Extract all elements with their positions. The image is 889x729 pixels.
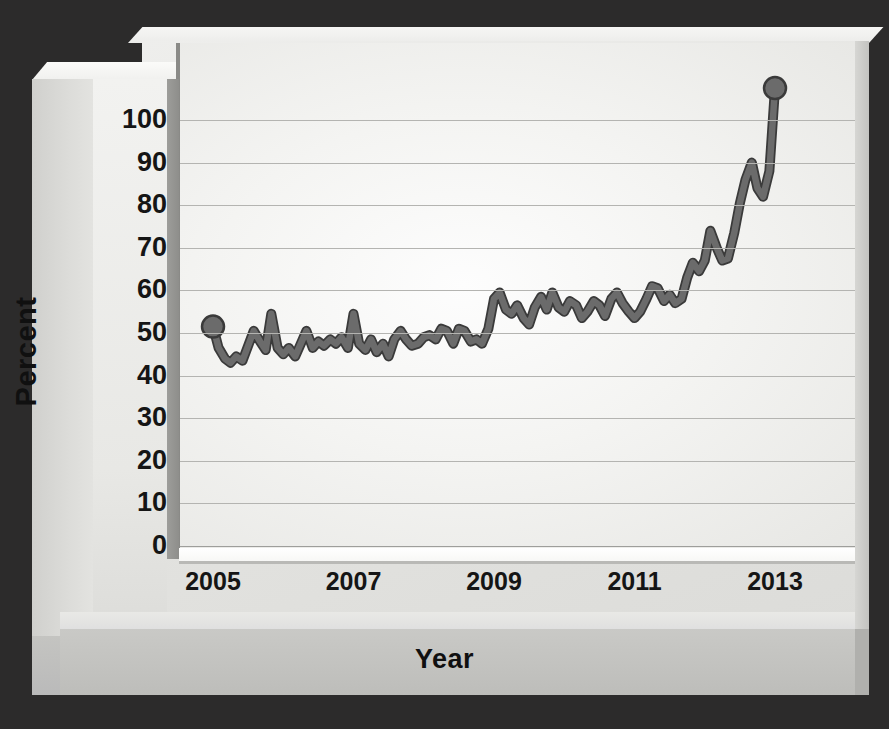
y-tick-label-90: 90 xyxy=(97,149,167,176)
y-tick-label-60: 60 xyxy=(97,276,167,303)
x-tick-label-2009: 2009 xyxy=(444,569,544,594)
x-tick-label-2011: 2011 xyxy=(585,569,685,594)
gridline-50 xyxy=(179,333,855,334)
y-tick-label-80: 80 xyxy=(97,191,167,218)
end-point-marker xyxy=(764,77,786,99)
y-tick-label-30: 30 xyxy=(97,404,167,431)
gridline-0 xyxy=(179,546,855,547)
floor-strip xyxy=(179,548,855,562)
y-tick-label-40: 40 xyxy=(97,362,167,389)
plot-area xyxy=(179,43,855,548)
x-axis-title: Year xyxy=(0,644,889,675)
gridline-40 xyxy=(179,376,855,377)
y-axis-inner-bevel xyxy=(167,79,179,559)
chart-screenshot: 0102030405060708090100 20052007200920112… xyxy=(0,0,889,729)
gridline-60 xyxy=(179,290,855,291)
gridline-100 xyxy=(179,120,855,121)
data-series-line xyxy=(179,43,855,548)
y-tick-label-10: 10 xyxy=(97,489,167,516)
gridline-10 xyxy=(179,503,855,504)
x-tick-label-2013: 2013 xyxy=(725,569,825,594)
x-tick-label-2007: 2007 xyxy=(304,569,404,594)
frame-right-bevel xyxy=(855,41,869,629)
gridline-30 xyxy=(179,418,855,419)
gridline-70 xyxy=(179,248,855,249)
gridline-20 xyxy=(179,461,855,462)
gridline-80 xyxy=(179,205,855,206)
y-axis-tick-labels: 0102030405060708090100 xyxy=(93,0,167,729)
x-tick-label-2005: 2005 xyxy=(163,569,263,594)
gridline-90 xyxy=(179,163,855,164)
y-tick-label-20: 20 xyxy=(97,447,167,474)
series-line-outline xyxy=(213,88,775,363)
start-point-marker xyxy=(202,316,224,338)
y-tick-label-100: 100 xyxy=(97,106,167,133)
y-tick-label-0: 0 xyxy=(97,532,167,559)
y-tick-label-70: 70 xyxy=(97,234,167,261)
y-axis-title: Percent xyxy=(10,292,43,412)
x-axis-line xyxy=(179,561,855,564)
y-tick-label-50: 50 xyxy=(97,319,167,346)
